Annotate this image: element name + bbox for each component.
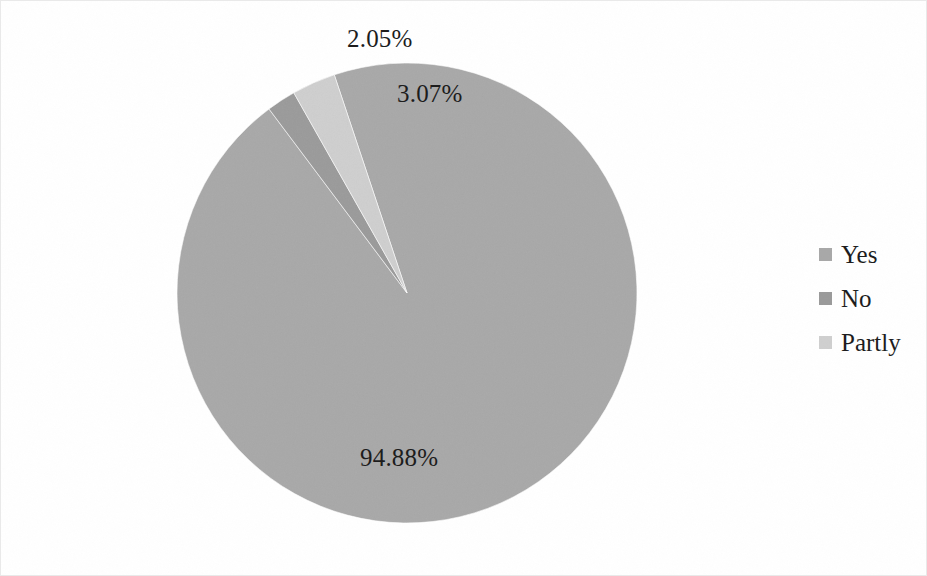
slice-label-no: 2.05%	[347, 25, 413, 53]
legend-swatch-icon-no	[819, 292, 832, 305]
legend-label-yes: Yes	[841, 242, 877, 267]
legend-label-partly: Partly	[841, 330, 901, 355]
legend-item-no: No	[819, 276, 919, 320]
slice-label-partly: 3.07%	[397, 80, 463, 108]
legend-swatch-icon-partly	[819, 336, 832, 349]
pie-plot-area: 2.05% 3.07% 94.88%	[1, 1, 701, 576]
chart-legend: Yes No Partly	[819, 232, 919, 364]
legend-item-yes: Yes	[819, 232, 919, 276]
pie-svg	[1, 1, 701, 576]
pie-chart-figure: 2.05% 3.07% 94.88% Yes No Partly	[0, 0, 927, 576]
legend-swatch-icon-yes	[819, 248, 832, 261]
legend-label-no: No	[841, 286, 872, 311]
legend-item-partly: Partly	[819, 320, 919, 364]
slice-label-yes: 94.88%	[360, 444, 438, 472]
